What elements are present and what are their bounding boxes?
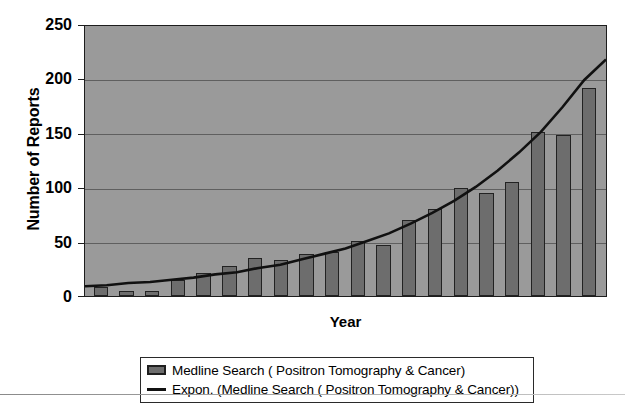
bar [556, 135, 570, 296]
y-axis-tick-labels: 250 200 150 100 50 0 [8, 0, 72, 412]
y-tick-100: 100 [14, 180, 72, 196]
y-tick-200: 200 [14, 71, 72, 87]
line-swatch-icon [147, 388, 166, 391]
bar [325, 252, 339, 296]
x-axis-title: Year [84, 313, 607, 330]
bar [299, 254, 313, 296]
bar-cell [88, 26, 114, 296]
bar-cell [217, 26, 243, 296]
bar-cell [474, 26, 500, 296]
bar-cell [448, 26, 474, 296]
bar [222, 266, 236, 296]
bar [454, 188, 468, 296]
bar-cell [191, 26, 217, 296]
bar-cell [422, 26, 448, 296]
bar-cell [345, 26, 371, 296]
bar-cell [242, 26, 268, 296]
bar-swatch-icon [147, 365, 166, 375]
bar [428, 209, 442, 296]
bar [376, 245, 390, 296]
bar [145, 291, 159, 296]
legend-item-trendline: Expon. (Medline Search ( Positron Tomogr… [147, 380, 527, 398]
bar [505, 182, 519, 296]
plot-area [84, 25, 607, 297]
bar [479, 193, 493, 296]
bar-cell [371, 26, 397, 296]
bar-cell [499, 26, 525, 296]
bar-cell [551, 26, 577, 296]
bar [94, 287, 108, 296]
legend-label-bars: Medline Search ( Positron Tomography & C… [172, 363, 465, 378]
y-tick-50: 50 [14, 235, 72, 251]
bar-cell [165, 26, 191, 296]
bar [196, 273, 210, 296]
bar [274, 260, 288, 296]
y-tick-150: 150 [14, 126, 72, 142]
y-tick-0: 0 [14, 289, 72, 305]
figure: Number of Reports 250 200 150 100 50 0 Y… [0, 0, 625, 412]
bar-series [85, 26, 606, 296]
bar [119, 291, 133, 296]
bar [351, 241, 365, 296]
bar-cell [268, 26, 294, 296]
bar-cell [396, 26, 422, 296]
bar-cell [319, 26, 345, 296]
bar-cell [525, 26, 551, 296]
bar [402, 220, 416, 296]
bar-cell [294, 26, 320, 296]
legend-item-bars: Medline Search ( Positron Tomography & C… [147, 361, 527, 379]
bar-cell [114, 26, 140, 296]
chart-legend: Medline Search ( Positron Tomography & C… [140, 357, 534, 403]
y-tick-250: 250 [14, 17, 72, 33]
bar-cell [139, 26, 165, 296]
bar [582, 88, 596, 296]
bar [248, 258, 262, 296]
footer-rule [0, 394, 625, 395]
bar-cell [576, 26, 602, 296]
bar [171, 280, 185, 296]
bar [531, 132, 545, 296]
